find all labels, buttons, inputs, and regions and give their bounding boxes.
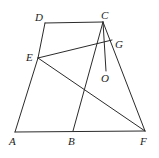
vertex-label-c: C [101,10,108,21]
vertex-label-d: D [35,12,43,23]
vertex-label-f: F [140,136,147,147]
vertex-label-b: B [68,136,75,147]
geometry-figure: ABFDCEGO [0,0,159,158]
segment-E-G [38,40,112,58]
vertex-label-e: E [26,52,33,63]
vertex-label-g: G [115,39,123,50]
segment-E-F [38,58,145,131]
vertex-label-o: O [101,73,109,84]
segment-C-B [73,22,103,131]
segment-E-A [15,58,38,132]
segment-D-E [38,23,45,58]
vertex-label-a: A [9,136,16,147]
segment-A-F [15,131,145,132]
figure-canvas [0,0,159,158]
edges-group [15,22,145,132]
segment-C-F [103,22,145,131]
segment-D-C [45,22,103,23]
